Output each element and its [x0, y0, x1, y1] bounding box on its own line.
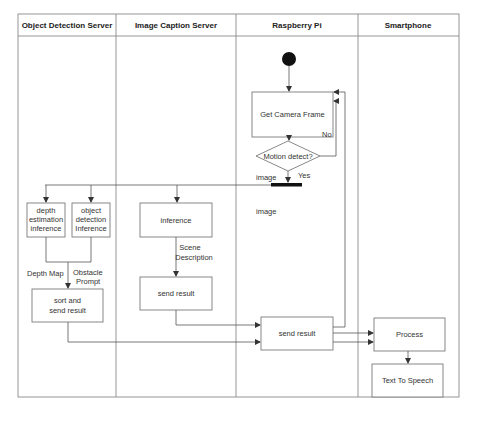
lane-title-raspberry-pi: Raspberry Pi — [272, 21, 321, 30]
fork-bar — [271, 183, 302, 187]
edge-join-ods — [46, 237, 91, 262]
node-motion-detect-decision: Motion detect? — [256, 141, 320, 171]
svg-text:estimation: estimation — [29, 215, 63, 224]
label-scene: Scene — [179, 243, 200, 252]
initial-node — [282, 52, 296, 66]
activity-diagram: Object Detection Server Image Caption Se… — [0, 0, 478, 423]
svg-text:send result: send result — [158, 289, 196, 298]
svg-text:Text To Speech: Text To Speech — [382, 376, 433, 385]
svg-text:sort and: sort and — [54, 296, 81, 305]
label-no: No — [322, 130, 332, 139]
lane-title-image-caption-server: Image Caption Server — [135, 21, 217, 30]
label-obstacle: Obstacle — [73, 268, 103, 277]
label-depth-map: Depth Map — [27, 269, 64, 278]
svg-text:inference: inference — [31, 224, 62, 233]
node-inference: inference — [140, 203, 212, 237]
label-description: Description — [175, 253, 213, 262]
label-image-below: image — [256, 207, 276, 216]
svg-text:detection: detection — [76, 215, 106, 224]
svg-text:Get Camera Frame: Get Camera Frame — [260, 110, 325, 119]
node-process: Process — [374, 318, 445, 351]
lane-title-smartphone: Smartphone — [385, 21, 432, 30]
svg-text:Motion detect?: Motion detect? — [263, 152, 312, 161]
node-send-result-raspberry-pi: send result — [261, 317, 333, 350]
svg-text:send result: send result — [49, 306, 87, 315]
svg-text:Process: Process — [396, 330, 423, 339]
node-send-result-caption: send result — [140, 277, 212, 310]
edge-loop-back-to-frame — [333, 92, 345, 327]
node-object-detection-inference: object detection Inference — [72, 203, 110, 237]
svg-text:Inference: Inference — [75, 224, 106, 233]
lane-title-object-detection-server: Object Detection Server — [22, 21, 113, 30]
svg-text:depth: depth — [37, 206, 56, 215]
label-yes: Yes — [298, 171, 310, 180]
svg-text:object: object — [81, 206, 102, 215]
edge-caption-to-rpi — [176, 310, 260, 325]
svg-text:send result: send result — [279, 329, 317, 338]
label-image-left: image — [256, 173, 276, 182]
node-text-to-speech: Text To Speech — [372, 364, 443, 397]
node-get-camera-frame: Get Camera Frame — [252, 92, 333, 137]
node-sort-and-send-result: sort and send result — [32, 289, 103, 322]
svg-text:inference: inference — [161, 216, 192, 225]
node-depth-estimation-inference: depth estimation inference — [27, 203, 65, 237]
label-prompt: Prompt — [76, 277, 101, 286]
